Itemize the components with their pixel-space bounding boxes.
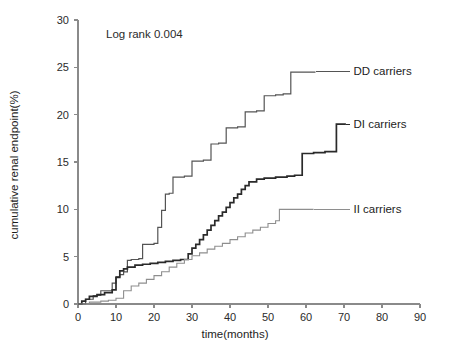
series-label-ii-carriers: II carriers bbox=[354, 203, 402, 215]
x-tick-label: 90 bbox=[414, 311, 426, 323]
x-tick-label: 20 bbox=[148, 311, 160, 323]
x-tick-label: 80 bbox=[376, 311, 388, 323]
y-tick-label: 25 bbox=[57, 61, 69, 73]
x-tick-label: 10 bbox=[110, 311, 122, 323]
y-tick-label: 15 bbox=[57, 156, 69, 168]
y-tick-label: 10 bbox=[57, 203, 69, 215]
x-tick-label: 30 bbox=[186, 311, 198, 323]
log-rank-annotation: Log rank 0.004 bbox=[106, 28, 183, 40]
y-axis-title: cumulative renal endpoint(%) bbox=[8, 90, 20, 239]
series-label-dd-carriers: DD carriers bbox=[354, 65, 412, 77]
series-label-di-carriers: DI carriers bbox=[354, 118, 407, 130]
x-tick-label: 70 bbox=[338, 311, 350, 323]
cumulative-renal-endpoint-chart: 051015202530 0102030405060708090 cumulat… bbox=[0, 0, 454, 346]
y-tick-label: 5 bbox=[63, 251, 69, 263]
x-tick-label: 60 bbox=[300, 311, 312, 323]
chart-background bbox=[0, 0, 454, 346]
x-tick-label: 40 bbox=[224, 311, 236, 323]
y-tick-label: 30 bbox=[57, 14, 69, 26]
chart-figure: 051015202530 0102030405060708090 cumulat… bbox=[0, 0, 454, 346]
y-tick-label: 0 bbox=[63, 298, 69, 310]
x-tick-label: 50 bbox=[262, 311, 274, 323]
y-tick-label: 20 bbox=[57, 109, 69, 121]
x-tick-label: 0 bbox=[75, 311, 81, 323]
x-axis-title: time(months) bbox=[201, 328, 268, 340]
